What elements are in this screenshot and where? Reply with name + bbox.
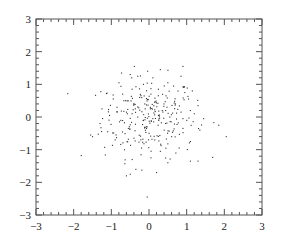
- data-point: [124, 149, 125, 150]
- data-point: [130, 118, 131, 119]
- data-point: [181, 112, 182, 113]
- data-point: [173, 130, 174, 131]
- data-point: [179, 148, 180, 149]
- data-point: [143, 120, 144, 121]
- data-point: [151, 151, 152, 152]
- data-point: [161, 122, 162, 123]
- data-point: [171, 114, 172, 115]
- y-tick-label: 2: [26, 46, 32, 58]
- data-points: [67, 66, 227, 198]
- data-point: [129, 126, 130, 127]
- data-point: [113, 99, 114, 100]
- data-point: [148, 147, 149, 148]
- data-point: [175, 105, 176, 106]
- data-point: [172, 132, 173, 133]
- data-point: [133, 105, 134, 106]
- data-point: [101, 131, 102, 132]
- data-point: [158, 140, 159, 141]
- data-point: [146, 104, 147, 105]
- data-point: [144, 119, 145, 120]
- data-point: [197, 100, 198, 101]
- data-point: [104, 147, 105, 148]
- data-point: [122, 120, 123, 121]
- data-point: [149, 121, 150, 122]
- data-point: [137, 76, 138, 77]
- data-point: [100, 91, 101, 92]
- data-point: [120, 86, 121, 87]
- data-point: [113, 133, 114, 134]
- data-point: [111, 124, 112, 125]
- data-point: [126, 112, 127, 113]
- data-point: [92, 136, 93, 137]
- data-point: [154, 136, 155, 137]
- data-point: [124, 122, 125, 123]
- data-point: [188, 118, 189, 119]
- data-point: [122, 131, 123, 132]
- data-point: [190, 161, 191, 162]
- data-point: [139, 135, 140, 136]
- data-point: [160, 144, 161, 145]
- data-point: [152, 118, 153, 119]
- data-point: [167, 82, 168, 83]
- data-point: [81, 155, 82, 156]
- data-point: [142, 139, 143, 140]
- data-point: [101, 108, 102, 109]
- data-point: [112, 132, 113, 133]
- data-point: [160, 151, 161, 152]
- data-point: [131, 100, 132, 101]
- x-tick-label: −2: [68, 220, 80, 232]
- data-point: [162, 94, 163, 95]
- data-point: [125, 133, 126, 134]
- data-point: [146, 90, 147, 91]
- data-point: [174, 101, 175, 102]
- data-point: [177, 124, 178, 125]
- data-point: [218, 125, 219, 126]
- data-point: [187, 96, 188, 97]
- data-point: [118, 82, 119, 83]
- data-point: [155, 101, 156, 102]
- data-point: [176, 113, 177, 114]
- data-point: [163, 103, 164, 104]
- data-point: [126, 175, 127, 176]
- data-point: [175, 136, 176, 137]
- data-point: [140, 95, 141, 96]
- data-point: [163, 118, 164, 119]
- data-point: [165, 157, 166, 158]
- data-point: [120, 120, 121, 121]
- data-point: [124, 163, 125, 164]
- data-point: [171, 105, 172, 106]
- data-point: [176, 119, 177, 120]
- data-point: [135, 112, 136, 113]
- data-point: [135, 124, 136, 125]
- data-point: [156, 102, 157, 103]
- data-point: [123, 100, 124, 101]
- data-point: [128, 139, 129, 140]
- data-point: [102, 118, 103, 119]
- data-point: [159, 118, 160, 119]
- data-point: [132, 98, 133, 99]
- data-point: [135, 169, 136, 170]
- data-point: [122, 94, 123, 95]
- data-point: [155, 118, 156, 119]
- y-tick-label: −3: [19, 209, 31, 221]
- x-axis-tick-labels: −3−2−10123: [30, 220, 265, 232]
- data-point: [166, 107, 167, 108]
- data-point: [167, 70, 168, 71]
- data-point: [165, 123, 166, 124]
- data-point: [132, 159, 133, 160]
- data-point: [166, 123, 167, 124]
- data-point: [150, 157, 151, 158]
- data-point: [198, 128, 199, 129]
- data-point: [141, 111, 142, 112]
- data-point: [171, 121, 172, 122]
- x-tick-label: 1: [184, 220, 190, 232]
- data-point: [175, 103, 176, 104]
- y-axis-tick-labels: −3−2−10123: [19, 13, 31, 221]
- data-point: [129, 129, 130, 130]
- data-point: [135, 108, 136, 109]
- data-point: [174, 128, 175, 129]
- data-point: [177, 109, 178, 110]
- data-point: [105, 154, 106, 155]
- data-point: [109, 115, 110, 116]
- data-point: [187, 149, 188, 150]
